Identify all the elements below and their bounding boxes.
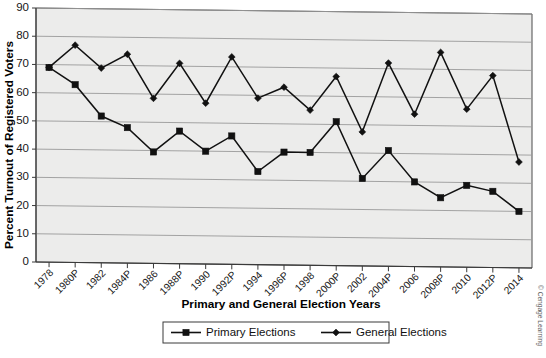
y-axis-title: Percent Turnout of Registered Voters [2, 41, 16, 249]
data-point-square [307, 149, 313, 155]
x-tick-label: 1980P [53, 267, 82, 296]
x-tick-labels: 19781980P19821984P19861988P19901992P1994… [32, 262, 526, 301]
x-tick-label: 1990 [188, 268, 212, 292]
data-point-square [385, 147, 391, 153]
y-tick-label: 70 [16, 57, 29, 69]
data-point-square [176, 128, 182, 134]
x-tick-label: 2004P [366, 271, 395, 300]
data-point-square [183, 329, 189, 335]
data-point-square [359, 175, 365, 181]
data-point-square [411, 179, 417, 185]
legend-label-primary: Primary Elections [206, 326, 296, 338]
data-point-square [281, 149, 287, 155]
chart-legend: Primary ElectionsGeneral Elections [163, 322, 447, 343]
y-tick-label: 20 [16, 199, 29, 211]
y-tick-labels: 0102030405060708090 [16, 1, 36, 267]
x-tick-label: 1992P [210, 269, 239, 298]
data-point-square [150, 149, 156, 155]
line-chart-svg: 0102030405060708090 19781980P19821984P19… [0, 0, 546, 358]
x-tick-label: 2014 [502, 272, 526, 296]
x-tick-label: 1982 [84, 267, 108, 291]
copyright-credit: © Cengage Learning [536, 285, 544, 346]
chart-figure: 0102030405060708090 19781980P19821984P19… [0, 0, 546, 358]
x-axis-title: Primary and General Election Years [181, 297, 381, 311]
x-tick-label: 2008P [418, 271, 447, 300]
x-tick-label: 2012P [471, 272, 500, 301]
y-tick-label: 10 [16, 227, 29, 239]
x-tick-label: 1994 [240, 269, 264, 293]
data-point-square [255, 168, 261, 174]
x-tick-label: 2002 [345, 270, 369, 294]
legend-label-general: General Elections [356, 326, 447, 338]
data-point-square [203, 148, 209, 154]
plot-area-background [36, 8, 532, 268]
x-tick-label: 1986 [136, 268, 160, 292]
y-tick-label: 30 [16, 170, 29, 182]
data-point-square [333, 119, 339, 125]
x-tick-label: 1996P [262, 269, 291, 298]
y-tick-label: 80 [16, 29, 29, 41]
x-tick-label: 1984P [105, 268, 134, 297]
y-tick-label: 90 [16, 1, 29, 13]
x-tick-label: 1988P [157, 268, 186, 297]
y-tick-label: 40 [16, 142, 29, 154]
y-tick-label: 60 [16, 86, 29, 98]
data-point-square [229, 133, 235, 139]
y-tick-label: 0 [23, 255, 29, 267]
plot-area [36, 8, 532, 268]
data-point-square [124, 125, 130, 131]
data-point-square [98, 113, 104, 119]
data-point-square [516, 208, 522, 214]
x-tick-label: 2006 [397, 271, 421, 295]
x-tick-label: 2010 [449, 272, 473, 296]
x-tick-label: 1978 [32, 267, 56, 291]
x-tick-label: 1998 [293, 270, 317, 294]
x-tick-label: 2000P [314, 270, 343, 299]
data-point-square [438, 195, 444, 201]
data-point-square [464, 182, 470, 188]
data-point-square [72, 82, 78, 88]
y-tick-label: 50 [16, 114, 29, 126]
data-point-square [490, 188, 496, 194]
